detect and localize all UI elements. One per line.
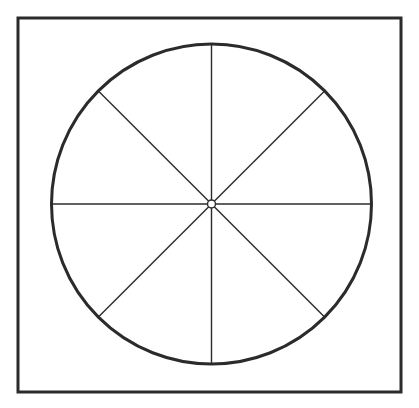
figure-container <box>0 0 419 408</box>
center-hub <box>208 200 216 208</box>
circle-eighths-diagram <box>0 0 419 408</box>
